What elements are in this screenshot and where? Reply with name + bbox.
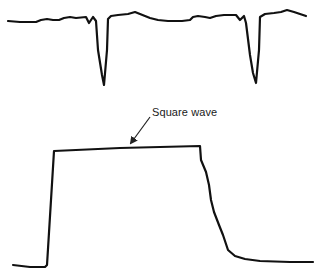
annotation-arrow xyxy=(131,117,150,143)
top-waveform-trace xyxy=(8,10,306,85)
square-wave-label: Square wave xyxy=(152,106,217,118)
square-wave-trace xyxy=(13,146,313,267)
waveform-diagram xyxy=(0,0,319,280)
